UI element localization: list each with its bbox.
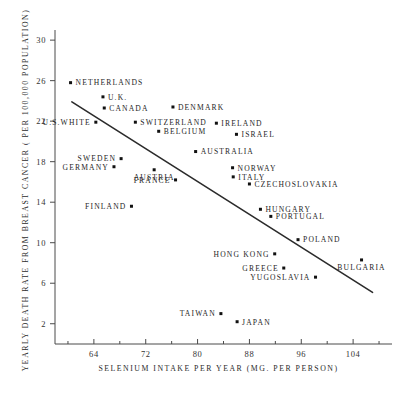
y-tick-label: 10 <box>36 238 46 248</box>
data-point-label: GREECE <box>242 264 278 273</box>
data-point-label: DENMARK <box>178 103 224 112</box>
y-tick-label: 2 <box>41 319 46 329</box>
x-tick-label: 64 <box>89 349 99 359</box>
y-tick-label: 18 <box>36 157 46 167</box>
data-point <box>69 81 72 84</box>
data-point <box>248 182 251 185</box>
data-point <box>101 95 104 98</box>
data-point <box>171 105 174 108</box>
data-point <box>219 312 222 315</box>
y-tick-label: 14 <box>36 197 46 207</box>
data-point <box>273 252 276 255</box>
data-point-label: CANADA <box>109 104 148 113</box>
data-point <box>157 130 160 133</box>
data-point <box>232 175 235 178</box>
y-tick-label: 26 <box>36 76 46 86</box>
data-point-label: CZECHOSLOVAKIA <box>254 180 338 189</box>
x-tick-label: 80 <box>193 349 203 359</box>
regression-trend-line <box>72 102 373 292</box>
data-point-label: POLAND <box>303 235 341 244</box>
y-tick-label: 30 <box>36 35 46 45</box>
data-point <box>120 157 123 160</box>
x-tick-label: 72 <box>141 349 151 359</box>
data-point <box>194 150 197 153</box>
plot-canvas: 261014182226306472808896104 NETHERLANDSU… <box>0 0 416 399</box>
axes <box>50 30 392 344</box>
data-point-label: JAPAN <box>242 318 271 327</box>
x-tick-label: 88 <box>245 349 255 359</box>
data-point-label: SWITZERLAND <box>140 118 207 127</box>
breast-cancer-selenium-scatter-figure: 261014182226306472808896104 NETHERLANDSU… <box>0 0 416 399</box>
data-point-label: AUSTRALIA <box>201 147 254 156</box>
data-point <box>259 208 262 211</box>
data-point-label: FRANCE <box>134 176 171 185</box>
data-point-label: BULGARIA <box>337 263 385 272</box>
data-point <box>112 165 115 168</box>
data-point <box>153 168 156 171</box>
data-point-label: FINLAND <box>85 202 126 211</box>
data-point <box>231 166 234 169</box>
data-point <box>130 205 133 208</box>
x-tick-label: 96 <box>296 349 306 359</box>
data-point <box>103 106 106 109</box>
data-point-label: BELGIUM <box>164 127 207 136</box>
data-point-label: NORWAY <box>238 164 277 173</box>
data-point-label: HONG KONG <box>214 250 270 259</box>
data-point <box>235 133 238 136</box>
data-point-label: U.S.WHITE <box>43 118 91 127</box>
data-point <box>297 238 300 241</box>
data-point-label: PORTUGAL <box>276 212 325 221</box>
data-point-label: NETHERLANDS <box>76 78 144 87</box>
data-point <box>360 258 363 261</box>
data-point-label: TAIWAN <box>180 309 216 318</box>
data-point <box>94 121 97 124</box>
data-point-label: U.K. <box>108 93 127 102</box>
data-point <box>236 320 239 323</box>
y-tick-label: 6 <box>41 278 46 288</box>
data-point-label: GERMANY <box>63 163 109 172</box>
data-point <box>269 215 272 218</box>
y-axis-title: YEARLY DEATH RATE FROM BREAST CANCER ( P… <box>21 9 30 372</box>
data-point-label: ISRAEL <box>241 130 274 139</box>
data-point <box>282 267 285 270</box>
data-point-label: YUGOSLAVIA <box>250 273 310 282</box>
x-axis-title: SELENIUM INTAKE PER YEAR (MG. PER PERSON… <box>98 364 338 373</box>
x-tick-label: 104 <box>346 349 361 359</box>
data-point <box>134 121 137 124</box>
data-point <box>215 122 218 125</box>
data-point <box>314 276 317 279</box>
trend-line <box>72 102 373 292</box>
data-point-label: IRELAND <box>221 119 262 128</box>
